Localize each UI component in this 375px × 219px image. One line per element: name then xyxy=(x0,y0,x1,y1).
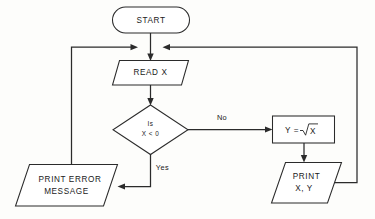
edge-label-yes: Yes xyxy=(156,163,169,172)
node-print-xy-label-line2: X, Y xyxy=(295,184,313,193)
edge-compute-to-print xyxy=(301,143,307,163)
edge-label-no: No xyxy=(217,113,227,122)
node-print-error[interactable]: PRINT ERROR MESSAGE xyxy=(16,165,118,207)
node-print-error-label-line1: PRINT ERROR xyxy=(39,175,102,184)
flowchart-canvas: START READ X Is X < 0 Y = X PRINT X, xyxy=(0,0,375,219)
node-start-label: START xyxy=(136,16,165,25)
node-print-xy[interactable]: PRINT X, Y xyxy=(272,163,342,204)
node-print-xy-label-line1: PRINT xyxy=(293,172,321,181)
node-compute-y-label: Y = xyxy=(285,126,299,135)
node-compute-y[interactable]: Y = X xyxy=(273,116,335,143)
node-print-error-label-line2: MESSAGE xyxy=(44,187,89,196)
edge-decision-no xyxy=(188,126,273,132)
node-start[interactable]: START xyxy=(113,7,190,33)
node-compute-y-radicand: X xyxy=(310,127,316,136)
node-read-x[interactable]: READ X xyxy=(113,61,189,86)
flowchart-svg: START READ X Is X < 0 Y = X PRINT X, xyxy=(0,0,375,219)
edge-decision-yes xyxy=(118,155,151,190)
edge-read-to-decision xyxy=(147,85,153,106)
node-decision-label-line1: Is xyxy=(148,120,154,127)
node-read-x-label: READ X xyxy=(133,68,167,77)
node-decision-label-line2: X < 0 xyxy=(142,130,160,137)
node-decision[interactable]: Is X < 0 xyxy=(113,105,188,155)
edge-print-xy-to-read xyxy=(163,44,358,182)
edge-start-to-read xyxy=(147,33,153,61)
